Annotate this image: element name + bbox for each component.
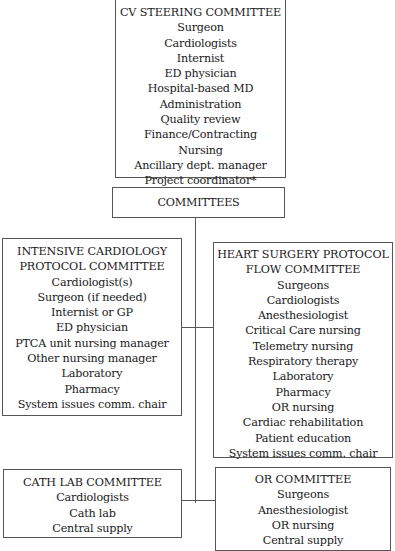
intensive-member: Surgeon (if needed) (3, 290, 181, 305)
heart-title-line: FLOW COMMITTEE (214, 262, 392, 277)
intensive-member: PTCA unit nursing manager (3, 336, 181, 351)
heart-member: System issues comm. chair (214, 446, 392, 461)
steering-title: CV STEERING COMMITTEE (116, 5, 285, 20)
heart-member: Patient education (214, 431, 392, 446)
intensive-title-line: INTENSIVE CARDIOLOGY (3, 244, 181, 259)
heart-member: Laboratory (214, 369, 392, 384)
heart-title-line: HEART SURGERY PROTOCOL (214, 247, 392, 262)
or-member: Anesthesiologist (216, 503, 390, 518)
steering-member: Finance/Contracting (116, 127, 285, 142)
steering-member: Hospital-based MD (116, 81, 285, 96)
heart-surgery-committee-box: HEART SURGERY PROTOCOL FLOW COMMITTEE Su… (213, 242, 393, 458)
cath-member: Central supply (4, 521, 181, 536)
or-title: OR COMMITTEE (216, 472, 390, 487)
steering-member: Ancillary dept. manager (116, 158, 285, 173)
cath-lab-committee-box: CATH LAB COMMITTEE Cardiologists Cath la… (3, 469, 182, 538)
or-member: OR nursing (216, 518, 390, 533)
cath-member: Cath lab (4, 506, 181, 521)
intensive-title-line: PROTOCOL COMMITTEE (3, 259, 181, 274)
intensive-member: Laboratory (3, 366, 181, 381)
heart-member: Respiratory therapy (214, 354, 392, 369)
intensive-member: Other nursing manager (3, 351, 181, 366)
steering-member: ED physician (116, 66, 285, 81)
committees-box: COMMITTEES (112, 187, 285, 218)
heart-member: Surgeons (214, 278, 392, 293)
heart-member: OR nursing (214, 400, 392, 415)
steering-member: Internist (116, 51, 285, 66)
intensive-member: ED physician (3, 320, 181, 335)
steering-member: Quality review (116, 112, 285, 127)
steering-member: Nursing (116, 143, 285, 158)
heart-member: Cardiac rehabilitation (214, 415, 392, 430)
heart-member: Critical Care nursing (214, 323, 392, 338)
intensive-member: System issues comm. chair (3, 397, 181, 412)
committees-label: COMMITTEES (157, 196, 239, 209)
cv-steering-committee-box: CV STEERING COMMITTEE Surgeon Cardiologi… (115, 0, 286, 178)
connector-intensive-heart (182, 327, 213, 328)
heart-member: Telemetry nursing (214, 339, 392, 354)
intensive-member: Cardiologist(s) (3, 275, 181, 290)
connector-cath-or (182, 500, 215, 501)
intensive-member: Internist or GP (3, 305, 181, 320)
or-member: Surgeons (216, 487, 390, 502)
steering-member: Cardiologists (116, 36, 285, 51)
intensive-member: Pharmacy (3, 382, 181, 397)
cath-title: CATH LAB COMMITTEE (4, 475, 181, 490)
heart-member: Cardiologists (214, 293, 392, 308)
intensive-cardiology-committee-box: INTENSIVE CARDIOLOGY PROTOCOL COMMITTEE … (2, 238, 182, 416)
steering-member: Administration (116, 97, 285, 112)
heart-member: Anesthesiologist (214, 308, 392, 323)
steering-member: Surgeon (116, 20, 285, 35)
trunk-line-left (195, 218, 196, 503)
heart-member: Pharmacy (214, 385, 392, 400)
cath-member: Cardiologists (4, 490, 181, 505)
or-member: Central supply (216, 533, 390, 548)
or-committee-box: OR COMMITTEE Surgeons Anesthesiologist O… (215, 467, 391, 551)
